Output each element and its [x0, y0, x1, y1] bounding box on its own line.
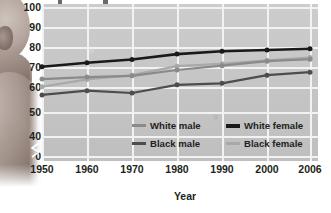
- data-point: [220, 63, 225, 68]
- x-tick-label: 1990: [205, 163, 239, 175]
- y-tick-label: 40: [15, 131, 41, 141]
- data-point: [40, 84, 45, 89]
- legend-swatch-icon: [226, 124, 240, 128]
- data-point: [40, 92, 45, 97]
- data-point: [175, 82, 180, 87]
- data-point: [40, 64, 45, 69]
- legend-swatch-icon: [226, 142, 240, 145]
- chart-legend: White male White female Black male Black…: [132, 118, 316, 154]
- data-point: [85, 88, 90, 93]
- y-tick-label: 80: [15, 42, 41, 52]
- data-point: [265, 59, 270, 64]
- x-tick-label: 2000: [250, 163, 284, 175]
- data-point: [220, 81, 225, 86]
- data-point: [85, 75, 90, 80]
- legend-swatch-icon: [132, 124, 146, 127]
- x-tick-label: 1960: [70, 163, 104, 175]
- data-point: [40, 77, 45, 82]
- y-tick-label: 90: [15, 22, 41, 32]
- y-tick-label: 50: [15, 107, 41, 117]
- data-point: [265, 48, 270, 53]
- legend-item-white-male[interactable]: White male: [132, 118, 201, 133]
- chart-figure: 100 90 80 70 60 50 40 0 1950 1960 19: [0, 0, 331, 213]
- legend-item-black-male[interactable]: Black male: [132, 136, 200, 151]
- data-point: [308, 57, 313, 62]
- y-axis-break-icon: [30, 142, 40, 158]
- legend-label: White female: [244, 120, 303, 131]
- legend-label: White male: [150, 120, 201, 131]
- x-tick-label: 1980: [160, 163, 194, 175]
- data-point: [130, 57, 135, 62]
- legend-label: Black male: [150, 138, 200, 149]
- data-point: [175, 52, 180, 57]
- data-point: [130, 91, 135, 96]
- x-axis-title: Year: [150, 190, 220, 202]
- legend-item-white-female[interactable]: White female: [226, 118, 303, 133]
- legend-swatch-icon: [132, 142, 146, 145]
- data-point: [265, 73, 270, 78]
- x-tick-label: 2006: [293, 163, 327, 175]
- legend-item-black-female[interactable]: Black female: [226, 136, 303, 151]
- data-point: [130, 73, 135, 78]
- data-point: [220, 49, 225, 54]
- y-tick-label: 100: [15, 2, 41, 12]
- data-point: [308, 46, 313, 51]
- y-tick-label: 60: [15, 82, 41, 92]
- y-tick-label: 70: [15, 62, 41, 72]
- x-tick-label: 1970: [115, 163, 149, 175]
- data-point: [308, 70, 313, 75]
- legend-label: Black female: [244, 138, 303, 149]
- data-point: [175, 68, 180, 73]
- x-tick-label: 1950: [25, 163, 59, 175]
- data-point: [85, 60, 90, 65]
